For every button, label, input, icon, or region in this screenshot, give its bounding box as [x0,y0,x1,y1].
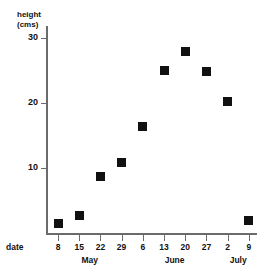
x-tick [249,235,250,241]
data-point [202,67,211,76]
x-tick [206,235,207,241]
y-tick [41,168,47,169]
y-tick [41,38,47,39]
data-point [160,66,169,75]
x-tick-label: 22 [89,243,111,252]
x-tick-label: 27 [195,243,217,252]
x-tick-label: 6 [132,243,154,252]
month-label: May [70,256,110,265]
x-tick-label: 29 [111,243,133,252]
x-tick [58,235,59,241]
x-tick-label: 20 [174,243,196,252]
x-tick-label: 8 [47,243,69,252]
y-tick [41,103,47,104]
x-tick-label: 13 [153,243,175,252]
month-label: July [218,256,258,265]
data-point [54,219,63,228]
y-tick-label: 30 [14,33,38,42]
x-tick [143,235,144,241]
data-point [223,97,232,106]
x-tick-label: 2 [217,243,239,252]
x-tick [79,235,80,241]
x-tick [185,235,186,241]
data-point [244,216,253,225]
month-label: June [155,256,195,265]
x-tick [228,235,229,241]
data-point [96,172,105,181]
x-tick-label: 9 [238,243,260,252]
y-axis-line [46,26,48,234]
y-axis-title: height (cms) [17,10,41,30]
y-tick-label: 10 [14,163,38,172]
x-tick-label: 15 [68,243,90,252]
data-point [138,122,147,131]
y-tick-label: 20 [14,98,38,107]
x-axis-line [46,233,257,235]
data-point [181,47,190,56]
data-point [75,211,84,220]
scatter-chart: height (cms) date 102030 815222961320272… [0,0,265,275]
x-tick [164,235,165,241]
x-tick [100,235,101,241]
data-point [117,158,126,167]
x-axis-title: date [6,243,23,252]
x-tick [122,235,123,241]
